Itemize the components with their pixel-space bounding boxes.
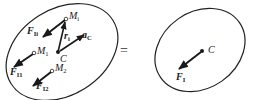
left-rigid-body: Mi FIi ri aC C M1 FI1 M2 FI2	[0, 0, 136, 100]
label-ri: ri	[64, 30, 70, 42]
label-Mi: Mi	[68, 10, 79, 22]
right-rigid-body: C FI	[139, 0, 259, 100]
vector-FI1	[14, 54, 33, 67]
label-FI2: FI2	[35, 80, 48, 92]
vector-FI	[179, 52, 201, 69]
equals-sign: =	[120, 43, 128, 58]
right-body-outline	[139, 0, 259, 100]
label-FI1: FI1	[9, 66, 22, 78]
label-M1: M1	[36, 45, 49, 57]
label-aC: aC	[82, 29, 92, 41]
equivalence-diagram: Mi FIi ri aC C M1 FI1 M2 FI2 = C FI	[0, 0, 259, 100]
label-C-right: C	[208, 44, 215, 55]
label-FIi: FIi	[26, 25, 38, 37]
left-body-outline	[0, 0, 136, 100]
label-FI: FI	[175, 71, 186, 83]
